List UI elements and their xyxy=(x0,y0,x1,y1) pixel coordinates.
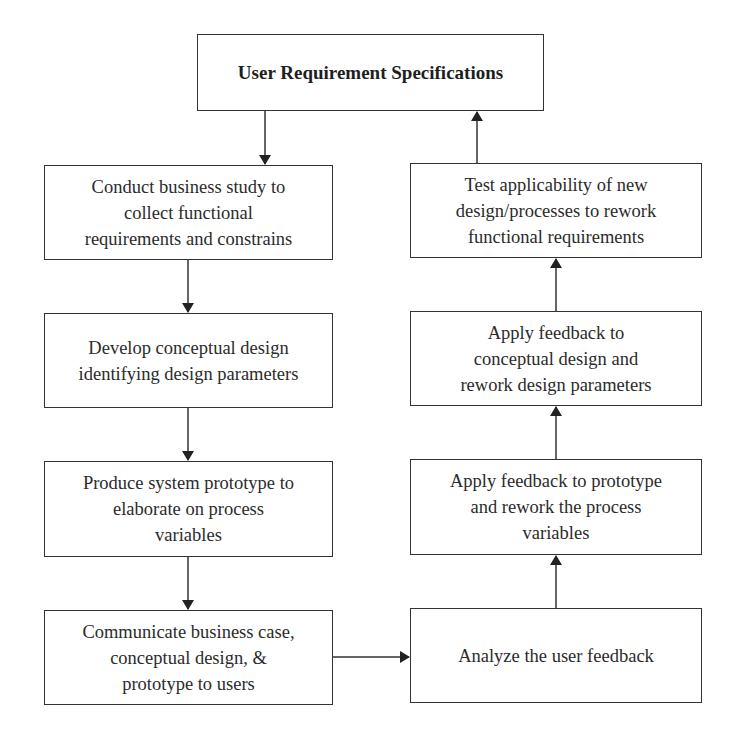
title-label: User Requirement Specifications xyxy=(238,60,503,86)
box-apply-feedback-design: Apply feedback to conceptual design and … xyxy=(410,311,702,406)
box-label: Analyze the user feedback xyxy=(458,643,654,669)
box-communicate: Communicate business case, conceptual de… xyxy=(44,610,333,705)
box-system-prototype: Produce system prototype to elaborate on… xyxy=(44,461,333,557)
box-business-study: Conduct business study to collect functi… xyxy=(44,165,333,260)
box-label: Conduct business study to collect functi… xyxy=(85,174,293,252)
title-box: User Requirement Specifications xyxy=(197,34,544,111)
box-label: Develop conceptual design identifying de… xyxy=(79,335,299,387)
box-test-applicability: Test applicability of new design/process… xyxy=(410,163,702,258)
box-label: Test applicability of new design/process… xyxy=(456,172,656,250)
box-label: Apply feedback to conceptual design and … xyxy=(460,320,651,398)
box-label: Produce system prototype to elaborate on… xyxy=(83,470,294,548)
box-label: Communicate business case, conceptual de… xyxy=(82,619,294,697)
box-apply-feedback-prototype: Apply feedback to prototype and rework t… xyxy=(410,459,702,555)
box-conceptual-design: Develop conceptual design identifying de… xyxy=(44,313,333,408)
box-analyze-feedback: Analyze the user feedback xyxy=(410,608,702,703)
box-label: Apply feedback to prototype and rework t… xyxy=(450,468,662,546)
